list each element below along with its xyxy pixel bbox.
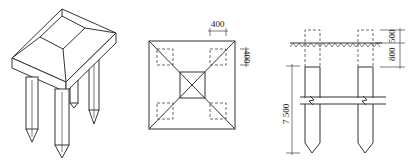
pile-front-center [55,89,69,158]
plan-dim-right: 400 [242,50,252,64]
isometric-view [12,9,116,158]
plan-dim-top: 400 [211,19,225,29]
pile-front-left [26,77,38,142]
plan-view: 400 400 [149,19,252,129]
section-view: 500 800 7 500 [281,28,405,155]
section-dim-upper: 500 [387,29,397,43]
figure-svg: 400 400 [0,0,415,165]
section-dim-lower: 800 [387,47,397,61]
section-dim-pile-length: 7 500 [281,103,291,124]
pile-cap-figure: 400 400 [0,0,415,165]
